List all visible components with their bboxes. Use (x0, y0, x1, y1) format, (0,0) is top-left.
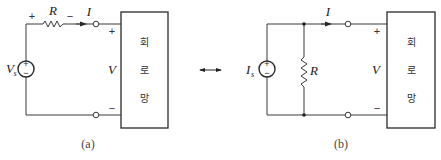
caption-b: (b) (334, 137, 348, 151)
equivalence-arrow-icon (199, 68, 222, 72)
terminal-top-icon (345, 21, 351, 27)
voltage-label: V (108, 62, 118, 77)
network-text-3: 망 (140, 93, 149, 104)
resistor-label: R (48, 3, 57, 18)
source-minus: − (23, 68, 28, 78)
terminal-minus: − (374, 102, 380, 114)
resistor-label: R (309, 63, 318, 78)
resistor-minus: − (67, 10, 73, 22)
resistor-icon (301, 57, 307, 87)
network-text-1: 회 (140, 37, 149, 48)
voltage-label: V (372, 62, 382, 77)
source-subscript: s (251, 70, 254, 79)
network-text-3: 망 (407, 93, 416, 104)
resistor-icon (43, 21, 63, 27)
circuit-equivalence-diagram: + − V s + R − I + V − 회 로 망 (a) (0, 0, 441, 160)
terminal-plus: + (109, 25, 115, 37)
network-text-2: 로 (140, 65, 149, 76)
circuit-b: + − I s R I + V − 회 로 망 (b) (245, 4, 435, 151)
terminal-minus: − (109, 102, 115, 114)
source-subscript: s (14, 69, 17, 78)
source-minus: − (264, 68, 269, 78)
terminal-top-icon (93, 21, 99, 27)
terminal-bottom-icon (345, 112, 351, 118)
network-text-1: 회 (407, 37, 416, 48)
current-label: I (86, 4, 92, 19)
circuit-a: + − V s + R − I + V − 회 로 망 (a) (6, 3, 168, 151)
caption-a: (a) (81, 137, 94, 151)
terminal-bottom-icon (93, 112, 99, 118)
node-bottom-icon (302, 113, 306, 117)
node-top-icon (302, 22, 306, 26)
terminal-plus: + (374, 25, 380, 37)
network-text-2: 로 (407, 65, 416, 76)
current-label: I (325, 4, 331, 19)
resistor-plus: + (29, 10, 35, 22)
